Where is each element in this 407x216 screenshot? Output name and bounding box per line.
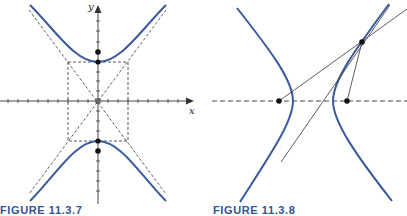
focus-right (344, 98, 350, 104)
vertex-upper (95, 59, 100, 64)
figure-caption-11-3-8: FIGURE 11.3.8 (213, 204, 295, 216)
diagram-canvas (0, 0, 407, 216)
hyperbola-left-branch (237, 8, 293, 202)
focus-left (276, 98, 282, 104)
figure-caption-11-3-7: FIGURE 11.3.7 (0, 204, 82, 216)
tangent-line (281, 5, 390, 162)
figure-11-3-7 (0, 5, 194, 204)
vertex-lower (95, 138, 100, 143)
hyperbola-right-branch (333, 4, 392, 201)
x-axis-label: x (189, 105, 195, 116)
point-p (359, 39, 365, 45)
focus-upper (95, 49, 101, 55)
focus-lower (95, 148, 101, 154)
y-axis-arrow-icon (95, 5, 102, 13)
x-axis-arrow-icon (186, 98, 194, 105)
figure-11-3-8 (212, 4, 407, 202)
focal-line-left (279, 9, 407, 101)
y-axis-label: y (88, 1, 94, 12)
